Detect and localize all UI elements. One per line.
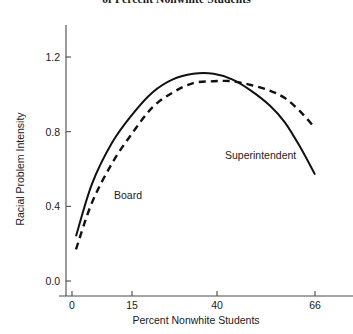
x-tick-label: 15	[117, 299, 147, 311]
x-tick-label: 66	[300, 299, 330, 311]
y-axis-title: Racial Problem Intensity	[14, 57, 28, 281]
y-tick-label: 0.8	[30, 126, 60, 138]
series-label-superintendent: Superintendent	[225, 149, 296, 161]
x-axis-ticks	[72, 291, 315, 296]
y-tick-label: 1.2	[30, 51, 60, 63]
y-axis-ticks	[66, 57, 71, 281]
y-tick-label: 0.0	[30, 275, 60, 287]
curve-superintendent	[76, 81, 315, 249]
y-tick-label: 0.4	[30, 200, 60, 212]
x-axis-title: Percent Nonwhite Students	[66, 314, 326, 326]
chart-figure: of Percent Nonwhite Students 0.00.40.81.…	[0, 0, 353, 334]
x-tick-label: 0	[57, 299, 87, 311]
data-curves	[76, 73, 315, 249]
x-tick-label: 40	[202, 299, 232, 311]
series-label-board: Board	[114, 189, 142, 201]
